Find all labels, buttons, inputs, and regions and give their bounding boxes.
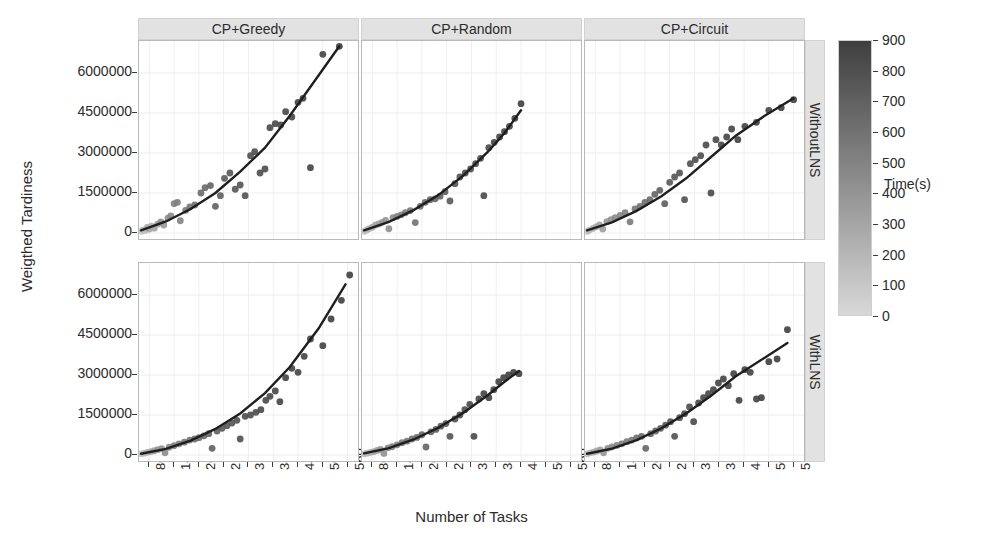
data-point xyxy=(728,126,735,133)
colorbar-tick-label: 500 xyxy=(882,155,922,171)
x-tick-mark xyxy=(644,462,645,467)
facet-col-strip: CP+Circuit xyxy=(584,18,805,40)
facet-panel xyxy=(584,40,805,240)
data-point xyxy=(295,369,302,376)
colorbar-tick-mark xyxy=(873,224,878,225)
data-point xyxy=(212,203,219,210)
y-tick-mark xyxy=(132,334,137,335)
y-tick-label: 0 xyxy=(32,223,132,239)
data-point xyxy=(207,182,214,189)
colorbar-tick-mark xyxy=(873,40,878,41)
data-point xyxy=(708,190,715,197)
data-point xyxy=(774,356,781,363)
x-tick-mark xyxy=(223,462,224,467)
data-point xyxy=(328,316,335,323)
data-point xyxy=(242,192,249,199)
x-tick-mark xyxy=(545,462,546,467)
data-point xyxy=(307,164,314,171)
colorbar-tick-label: 600 xyxy=(882,124,922,140)
x-tick-mark xyxy=(718,462,719,467)
data-point xyxy=(666,179,673,186)
colorbar-tick-label: 900 xyxy=(882,32,922,48)
data-point xyxy=(346,272,353,279)
data-point xyxy=(690,418,697,425)
y-tick-label: 3000000 xyxy=(32,365,132,381)
colorbar-tick-mark xyxy=(873,101,878,102)
x-tick-mark xyxy=(148,462,149,467)
x-tick-mark xyxy=(743,462,744,467)
trend-line xyxy=(141,46,339,230)
trend-line xyxy=(364,110,521,230)
data-point xyxy=(226,170,233,177)
y-tick-mark xyxy=(132,454,137,455)
y-tick-label: 1500000 xyxy=(32,405,132,421)
data-point xyxy=(385,225,392,232)
x-tick-mark xyxy=(594,462,595,467)
x-tick-mark xyxy=(173,462,174,467)
y-tick-label: 4500000 xyxy=(32,325,132,341)
data-point xyxy=(723,134,730,141)
data-point xyxy=(720,376,727,383)
data-point xyxy=(267,124,274,131)
x-tick-mark xyxy=(396,462,397,467)
x-tick-mark xyxy=(619,462,620,467)
data-point xyxy=(177,217,184,224)
y-tick-mark xyxy=(132,414,137,415)
colorbar-tick-mark xyxy=(873,163,878,164)
data-point xyxy=(276,398,283,405)
y-tick-mark xyxy=(132,232,137,233)
y-tick-mark xyxy=(132,192,137,193)
colorbar-tick-label: 700 xyxy=(882,93,922,109)
facet-col-strip: CP+Greedy xyxy=(138,18,359,40)
data-point xyxy=(736,397,743,404)
facet-col-strip: CP+Random xyxy=(361,18,582,40)
facet-row-strip-label: WithoutLNS xyxy=(807,103,823,178)
data-point xyxy=(423,444,430,451)
x-tick-mark xyxy=(272,462,273,467)
x-tick-mark xyxy=(347,462,348,467)
data-point xyxy=(447,433,454,440)
data-point xyxy=(237,182,244,189)
data-point xyxy=(642,445,649,452)
data-point xyxy=(758,394,765,401)
y-axis: 0150000030000004500000600000001500000300… xyxy=(28,0,132,544)
y-tick-label: 1500000 xyxy=(32,183,132,199)
data-point xyxy=(480,192,487,199)
data-point xyxy=(267,393,274,400)
facet-panel xyxy=(584,262,805,462)
facet-row-strip: WithoutLNS xyxy=(805,40,825,240)
facet-panel xyxy=(361,262,582,462)
x-tick-mark xyxy=(693,462,694,467)
colorbar-tick-mark xyxy=(873,71,878,72)
data-point xyxy=(713,136,720,143)
x-tick-mark xyxy=(446,462,447,467)
x-tick-mark xyxy=(669,462,670,467)
data-point xyxy=(518,100,525,107)
colorbar-tick-label: 800 xyxy=(882,63,922,79)
x-axis-title: Number of Tasks xyxy=(138,508,805,525)
facet-row-strip-label: WithLNS xyxy=(807,334,823,389)
facet-panel xyxy=(138,40,359,240)
trend-line xyxy=(141,284,345,453)
data-point xyxy=(301,353,308,360)
y-tick-label: 0 xyxy=(32,445,132,461)
colorbar-tick-mark xyxy=(873,316,878,317)
data-point xyxy=(412,219,419,226)
colorbar-title: Time(s) xyxy=(884,176,931,192)
data-point xyxy=(656,187,663,194)
colorbar: 0100200300400500600700800900 xyxy=(838,40,872,316)
y-tick-mark xyxy=(132,112,137,113)
data-point xyxy=(697,152,704,159)
x-tick-mark xyxy=(470,462,471,467)
data-point xyxy=(676,170,683,177)
data-point xyxy=(272,388,279,395)
x-tick-mark xyxy=(297,462,298,467)
data-point xyxy=(380,450,387,457)
y-tick-mark xyxy=(132,152,137,153)
data-point xyxy=(447,198,454,205)
colorbar-tick-mark xyxy=(873,132,878,133)
facet-panel xyxy=(138,262,359,462)
data-point xyxy=(319,342,326,349)
y-tick-mark xyxy=(132,72,137,73)
x-tick-mark xyxy=(520,462,521,467)
